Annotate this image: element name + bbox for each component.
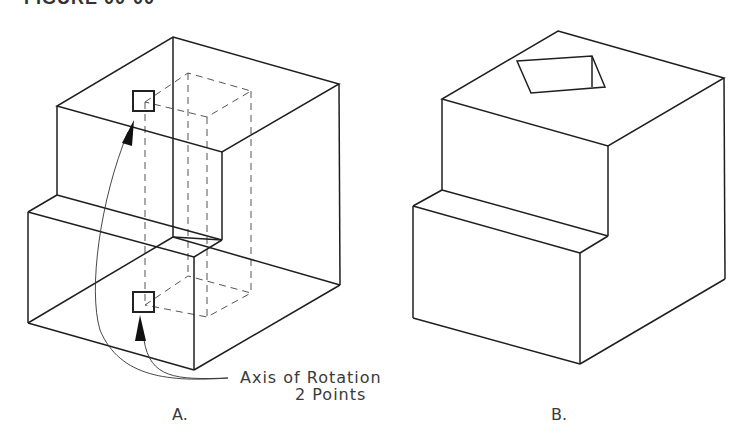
panel-a-label: A. [172,405,188,424]
hidden-prism-a [145,73,251,317]
leader-arrow-bottom [135,315,228,379]
leader-arrow-top [95,120,228,379]
stepped-block-b [413,31,725,364]
panel-a-drawing: Axis of Rotation 2 Points A. [28,37,382,424]
stepped-block-a [28,37,340,370]
pick-point-bottom [133,292,154,312]
figure-canvas: FIGURE 00-00 [0,0,741,442]
panel-b-label: B. [551,405,567,424]
figure-title: FIGURE 00-00 [24,0,155,9]
panel-b-drawing: B. [413,31,725,424]
top-opening-b [517,56,605,93]
pick-point-top [133,91,154,111]
axis-annotation-line2: 2 Points [295,385,366,404]
